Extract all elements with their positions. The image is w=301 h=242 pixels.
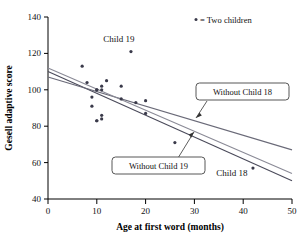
x-axis-title: Age at first word (months): [116, 222, 224, 233]
point-label-child-19: Child 19: [103, 34, 135, 44]
x-axis-tick-labels: 0 10 20 30 40 50: [46, 206, 297, 216]
x-tick-40: 40: [239, 206, 249, 216]
gesell-scatter-chart: 40 60 80 100 120 140 0 10 20 30 40 50 Ag…: [0, 0, 301, 242]
x-tick-20: 20: [141, 206, 151, 216]
y-tick-40: 40: [32, 194, 42, 204]
x-tick-30: 30: [190, 206, 200, 216]
scatter-point: [120, 85, 123, 88]
y-tick-80: 80: [32, 121, 42, 131]
scatter-point: [85, 81, 88, 84]
scatter-point: [81, 65, 84, 68]
callout-without-child-18: Without Child 18: [196, 83, 289, 118]
legend: = Two children: [195, 15, 253, 25]
scatter-point: [105, 79, 108, 82]
callout-label-18: Without Child 18: [213, 87, 272, 97]
y-tick-120: 120: [28, 48, 42, 58]
scatter-point: [100, 114, 103, 117]
scatter-markers: [81, 50, 255, 170]
y-axis-tick-labels: 40 60 80 100 120 140: [28, 12, 42, 204]
scatter-point: [120, 97, 123, 100]
y-axis-title: Gesell adaptive score: [4, 65, 14, 150]
x-axis-ticks: [48, 199, 292, 204]
scatter-point: [90, 105, 93, 108]
scatter-point: [90, 95, 93, 98]
scatter-point: [144, 99, 147, 102]
scatter-point: [95, 88, 98, 91]
scatter-point: [100, 85, 103, 88]
scatter-point: [100, 117, 103, 120]
scatter-point: [173, 141, 176, 144]
point-label-child-18: Child 18: [216, 168, 248, 178]
scatter-point: [144, 112, 147, 115]
callout-without-child-19: Without Child 19: [112, 132, 205, 174]
plot-canvas: 40 60 80 100 120 140 0 10 20 30 40 50 Ag…: [0, 0, 301, 242]
scatter-point: [129, 50, 132, 53]
legend-dot-icon: [195, 18, 198, 21]
y-axis-ticks: [44, 17, 48, 199]
y-tick-140: 140: [28, 12, 42, 22]
y-tick-60: 60: [32, 158, 42, 168]
scatter-point: [100, 88, 103, 91]
callout-label-19: Without Child 19: [129, 161, 188, 171]
x-tick-50: 50: [288, 206, 298, 216]
scatter-point: [95, 119, 98, 122]
x-tick-0: 0: [46, 206, 51, 216]
y-tick-100: 100: [28, 85, 42, 95]
legend-label: = Two children: [200, 15, 252, 25]
x-tick-10: 10: [92, 206, 102, 216]
scatter-point: [134, 101, 137, 104]
scatter-point: [251, 166, 254, 169]
